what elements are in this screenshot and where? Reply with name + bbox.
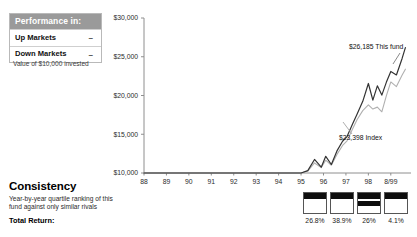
annotation-this-fund: $26,185 This fund xyxy=(349,43,404,50)
quartile-ranking-boxes: 26.8%38.9%26%4.1% xyxy=(303,192,411,224)
performance-row-value: – xyxy=(89,33,95,42)
x-axis-tick-label: 94 xyxy=(275,178,283,185)
quartile-band xyxy=(358,193,380,199)
performance-row-label: Up Markets xyxy=(15,34,56,43)
x-axis-tick-label: 89 xyxy=(163,178,171,185)
x-axis-tick-label: 91 xyxy=(208,178,216,185)
y-axis-tick-label: $20,000 xyxy=(113,92,138,99)
quartile-percent-label: 26.8% xyxy=(303,217,327,224)
performance-row-value: – xyxy=(89,50,95,59)
x-axis-tick-label: 93 xyxy=(252,178,260,185)
quartile-percent-label: 26% xyxy=(357,217,381,224)
quartile-box xyxy=(303,192,327,214)
annotation-index: $23,398 Index xyxy=(339,134,383,141)
quartile-cell: 4.1% xyxy=(384,192,408,224)
performance-row-label: Down Markets xyxy=(15,50,66,59)
quartile-cell: 26.8% xyxy=(303,192,327,224)
x-axis-tick-label: 88 xyxy=(140,178,148,185)
consistency-description: Year-by-year quartile ranking of this fu… xyxy=(9,195,127,212)
y-axis-tick-label: $30,000 xyxy=(113,14,138,21)
x-axis-tick-label: 97 xyxy=(342,178,350,185)
performance-panel: Performance in: Up Markets – Down Market… xyxy=(9,13,102,63)
quartile-band xyxy=(358,201,380,206)
quartile-cell: 38.9% xyxy=(330,192,354,224)
growth-of-10000-chart: $10,000$15,000$20,000$25,000$30,00088899… xyxy=(100,10,417,195)
chart-canvas: $10,000$15,000$20,000$25,000$30,00088899… xyxy=(100,10,417,195)
y-axis-tick-label: $25,000 xyxy=(113,53,138,60)
x-axis-tick-label: 96 xyxy=(320,178,328,185)
x-axis-tick-label: 90 xyxy=(185,178,193,185)
quartile-cell: 26% xyxy=(357,192,381,224)
x-axis-tick-label: 92 xyxy=(230,178,238,185)
quartile-percent-label: 4.1% xyxy=(384,217,408,224)
quartile-percent-label: 38.9% xyxy=(330,217,354,224)
performance-panel-header: Performance in: xyxy=(10,14,101,29)
y-axis-tick-label: $10,000 xyxy=(113,169,138,176)
quartile-band xyxy=(331,193,353,199)
quartile-box xyxy=(357,192,381,214)
quartile-band xyxy=(385,193,407,199)
series-line-index xyxy=(144,69,405,173)
quartile-box xyxy=(384,192,408,214)
total-return-label: Total Return: xyxy=(9,216,127,225)
annotation-leader-this-fund xyxy=(393,53,400,64)
y-axis-tick-label: $15,000 xyxy=(113,131,138,138)
series-line-this-fund xyxy=(144,48,405,173)
quartile-box xyxy=(330,192,354,214)
x-axis-tick-label: 98 xyxy=(365,178,373,185)
x-axis-tick-label: 95 xyxy=(297,178,305,185)
quartile-band xyxy=(304,193,326,199)
x-axis-tick-label: 8/99 xyxy=(384,178,397,185)
performance-row-up-markets[interactable]: Up Markets – xyxy=(10,29,101,45)
